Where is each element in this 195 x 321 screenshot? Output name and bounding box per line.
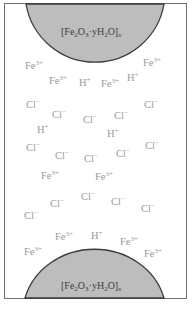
iron-ion: Fe3+	[24, 246, 42, 258]
chloride-ion: Cl−	[114, 110, 128, 122]
top-particle-formula: [Fe2O3·yH2O]x	[61, 27, 121, 39]
chloride-ion: Cl−	[50, 198, 64, 210]
chloride-ion: Cl−	[83, 114, 97, 126]
chloride-ion: Cl−	[141, 203, 155, 215]
iron-ion: Fe3+	[95, 171, 113, 183]
chloride-ion: Cl−	[52, 109, 66, 121]
iron-ion: Fe3+	[55, 231, 73, 243]
iron-ion: Fe3+	[101, 78, 119, 90]
chloride-ion: Cl−	[26, 142, 40, 154]
iron-ion: Fe3+	[49, 75, 67, 87]
chloride-ion: Cl−	[26, 99, 40, 111]
chloride-ion: Cl−	[24, 210, 38, 222]
iron-ion: Fe3+	[120, 236, 138, 248]
chloride-ion: Cl−	[145, 140, 159, 152]
iron-ion: Fe3+	[25, 60, 43, 72]
hydrogen-ion: H+	[91, 230, 103, 242]
iron-ion: Fe3+	[41, 170, 59, 182]
iron-ion: Fe3+	[143, 57, 161, 69]
chloride-ion: Cl−	[84, 153, 98, 165]
chloride-ion: Cl−	[144, 99, 158, 111]
bottom-particle-formula: [Fe2O3·yH2O]x	[61, 281, 121, 293]
chloride-ion: Cl−	[81, 191, 95, 203]
hydrogen-ion: H+	[37, 124, 49, 136]
iron-ion: Fe3+	[144, 248, 162, 260]
chloride-ion: Cl−	[111, 196, 125, 208]
hydrogen-ion: H+	[79, 77, 91, 89]
hydrogen-ion: H+	[127, 72, 139, 84]
chloride-ion: Cl−	[116, 148, 130, 160]
chloride-ion: Cl−	[55, 150, 69, 162]
hydrogen-ion: H+	[107, 128, 119, 140]
